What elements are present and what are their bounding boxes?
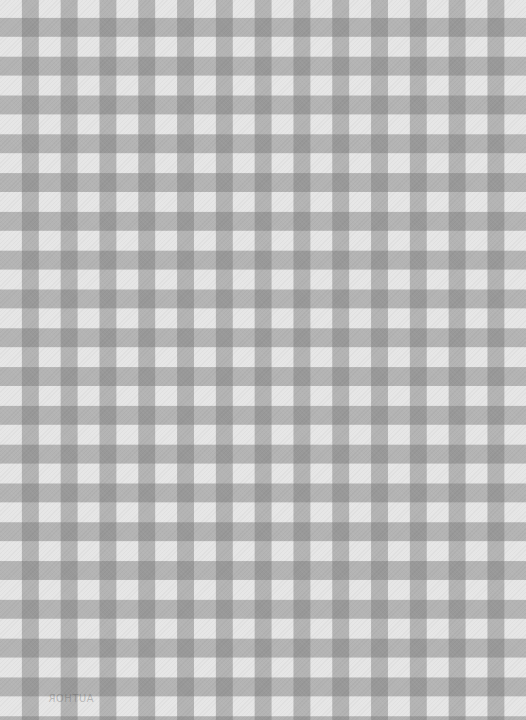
fabric-grain	[0, 0, 526, 720]
gingham-fabric	[0, 0, 526, 720]
bleed-through-caption: AUTHOR	[48, 693, 94, 704]
